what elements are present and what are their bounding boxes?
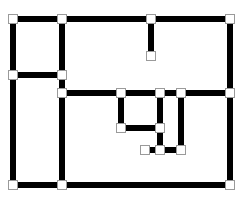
node-n16: [156, 146, 165, 155]
node-n4: [226, 15, 235, 24]
node-n5: [147, 52, 156, 61]
node-n14: [156, 124, 165, 133]
node-n7: [58, 71, 67, 80]
node-n20: [226, 181, 235, 190]
node-n18: [9, 181, 18, 190]
node-n2: [58, 15, 67, 24]
node-n8: [58, 89, 67, 98]
edges-layer: [13, 19, 230, 185]
node-n3: [147, 15, 156, 24]
node-n6: [9, 71, 18, 80]
node-n11: [177, 89, 186, 98]
node-n9: [117, 89, 126, 98]
node-n1: [9, 15, 18, 24]
node-n13: [117, 124, 126, 133]
node-n10: [156, 89, 165, 98]
node-n15: [141, 146, 150, 155]
node-n19: [58, 181, 67, 190]
node-n12: [226, 89, 235, 98]
node-n17: [177, 146, 186, 155]
graph-diagram: [0, 0, 245, 197]
